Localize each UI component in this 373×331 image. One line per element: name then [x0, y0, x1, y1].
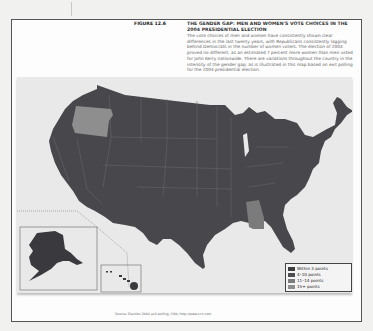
alaska-shape [29, 231, 83, 281]
legend-swatch [288, 279, 295, 283]
legend-swatch [288, 285, 295, 289]
page-edge-mark [71, 2, 72, 16]
source-note: Source: Election 2004 exit polling, CNN,… [115, 312, 211, 316]
map-legend: Within 3 points 4–10 points 11–14 points… [285, 263, 352, 292]
legend-item-15-plus: 15+ points [288, 284, 349, 290]
us-map-panel [17, 77, 352, 293]
us-map [17, 77, 352, 293]
hawaii-shape [106, 271, 138, 290]
legend-swatch [288, 273, 295, 277]
legend-label: 15+ points [297, 284, 320, 290]
figure-number: FIGURE 12.6 [134, 21, 166, 27]
figure-description: The vote choices of men and women have c… [187, 33, 357, 73]
figure-title: THE GENDER GAP: MEN AND WOMEN'S VOTE CHO… [187, 21, 357, 33]
state-oregon [72, 106, 113, 137]
legend-swatch [288, 267, 295, 271]
